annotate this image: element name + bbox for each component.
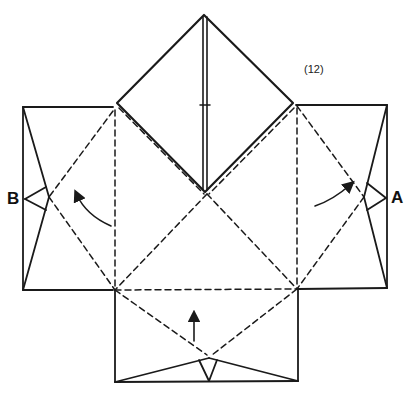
right-panel	[296, 105, 387, 289]
fold-arrow-left	[77, 195, 111, 226]
point-label-a: A	[391, 188, 403, 208]
step-number: (12)	[304, 63, 324, 75]
left-panel	[23, 107, 113, 290]
origami-diagram	[0, 0, 412, 393]
fold-arrow-right	[315, 185, 350, 206]
bottom-panel	[115, 289, 298, 382]
point-label-b: B	[7, 189, 19, 209]
top-diamond-flap	[117, 15, 293, 192]
